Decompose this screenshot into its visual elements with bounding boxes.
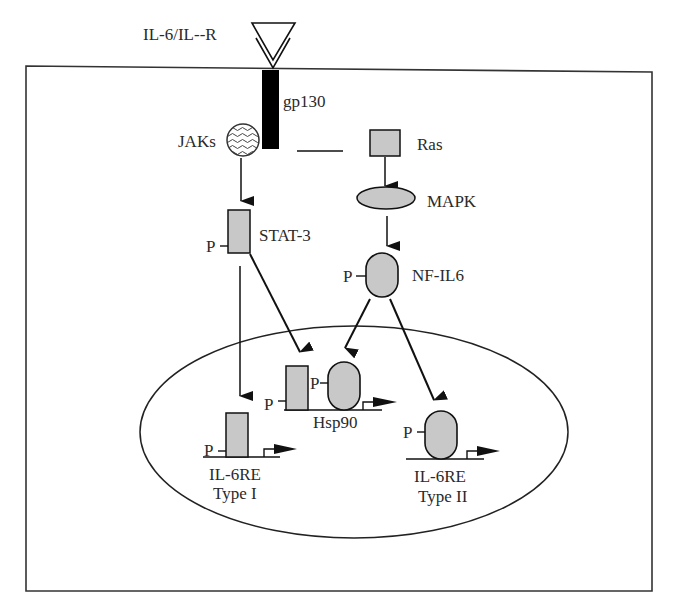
nucleus	[140, 326, 568, 538]
type1-label-line1: IL-6RE	[209, 465, 261, 484]
ras-node	[370, 130, 400, 156]
nfil6-label: NF-IL6	[412, 266, 464, 285]
type1-promoter	[203, 413, 297, 457]
nfil6-node	[366, 253, 398, 297]
hsp90-nfil6-phospho: P	[310, 374, 319, 393]
ras-label: Ras	[417, 135, 443, 154]
type2-label-line1: IL-6RE	[414, 467, 466, 486]
mapk-node	[357, 187, 415, 209]
jaks-label: JAKs	[178, 132, 216, 151]
nfil6-type2-arrow	[390, 299, 434, 400]
hsp90-label: Hsp90	[313, 413, 357, 432]
stat3-node	[228, 210, 250, 253]
hsp90-stat3-phospho: P	[264, 395, 273, 414]
type2-label-line2: Type II	[418, 487, 468, 506]
type2-phospho: P	[403, 423, 412, 442]
type1-phospho: P	[204, 441, 213, 460]
receptor-label: IL-6/IL--R	[143, 25, 217, 44]
nfil6-phospho: P	[343, 267, 352, 286]
jaks-icon	[227, 124, 259, 156]
mapk-label: MAPK	[427, 192, 477, 211]
nfil6-hsp90-arrow	[345, 299, 370, 348]
gp130-label: gp130	[283, 92, 326, 111]
type2-promoter	[406, 411, 500, 459]
il6-receptor-icon	[252, 23, 295, 68]
stat3-phospho: P	[206, 237, 215, 256]
hsp90-promoter	[278, 362, 397, 410]
stat3-label: STAT-3	[259, 226, 311, 245]
type1-label-line2: Type I	[213, 484, 257, 503]
pathway-diagram: IL-6/IL--R gp130 JAKs Ras MAPK P NF-IL6 …	[0, 0, 673, 611]
gp130-bar	[262, 70, 279, 149]
cell-boundary	[26, 66, 652, 591]
